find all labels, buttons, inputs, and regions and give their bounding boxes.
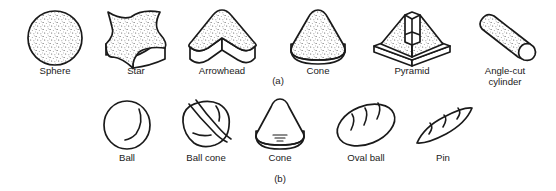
shape-ball: Ball	[104, 101, 150, 163]
row-caption-a: (a)	[272, 75, 284, 86]
shape-pyramid: Pyramid	[374, 12, 450, 76]
shapes-figure: Sphere Star Arrowhead	[0, 0, 556, 191]
shape-label-sphere: Sphere	[40, 65, 71, 76]
shape-label-angle-cut-cylinder-line2: cylinder	[488, 76, 522, 87]
sphere-icon	[28, 11, 82, 65]
shape-label-arrowhead: Arrowhead	[199, 65, 245, 76]
shape-arrowhead: Arrowhead	[189, 10, 256, 76]
shape-label-pyramid: Pyramid	[394, 65, 429, 76]
ball-icon	[104, 101, 150, 149]
cone-on-base-icon	[291, 10, 345, 64]
cone-outline-icon	[256, 99, 304, 149]
shape-label-ball: Ball	[119, 152, 135, 163]
shape-ball-cone: Ball cone	[183, 100, 231, 163]
shape-label-cone-a: Cone	[307, 65, 330, 76]
figure-canvas: Sphere Star Arrowhead	[0, 0, 556, 191]
row-caption-b: (b)	[274, 173, 286, 184]
shape-label-ball-cone: Ball cone	[186, 152, 225, 163]
angle-cut-cylinder-icon	[480, 15, 535, 61]
shape-label-star: Star	[127, 65, 145, 76]
shape-angle-cut-cylinder: Angle-cut cylinder	[480, 15, 535, 87]
ball-cone-icon	[183, 100, 231, 147]
oval-ball-icon	[331, 96, 401, 154]
shape-label-oval-ball: Oval ball	[347, 152, 384, 163]
shape-sphere: Sphere	[28, 11, 82, 76]
shape-cone-a: Cone	[291, 10, 345, 76]
shape-label-angle-cut-cylinder-line1: Angle-cut	[485, 65, 526, 76]
shape-star: Star	[106, 11, 166, 76]
shape-label-cone-b: Cone	[269, 152, 292, 163]
shape-oval-ball: Oval ball	[331, 96, 401, 163]
shape-pin: Pin	[417, 108, 472, 163]
truncated-pyramid-icon	[374, 12, 450, 66]
shape-label-pin: Pin	[436, 152, 450, 163]
extruded-arrowhead-icon	[189, 10, 256, 63]
pin-icon	[417, 108, 472, 143]
shape-cone-b: Cone	[256, 99, 304, 163]
extruded-star-icon	[106, 11, 166, 68]
